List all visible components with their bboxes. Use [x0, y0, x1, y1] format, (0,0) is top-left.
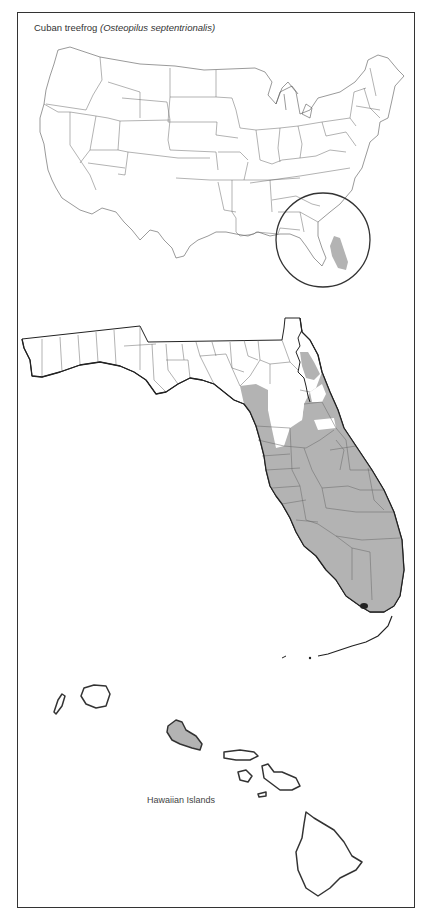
hawaii-big-island — [296, 812, 362, 896]
maui-island — [262, 764, 300, 790]
kahoolawe-island — [258, 792, 266, 797]
hawaii-map — [54, 685, 362, 896]
florida-map — [22, 318, 404, 659]
us-map — [40, 47, 404, 266]
molokai-island — [224, 750, 258, 760]
lanai-island — [238, 770, 252, 782]
hawaii-label: Hawaiian Islands — [147, 795, 215, 805]
range-map — [0, 0, 428, 922]
florida-present-peninsula — [240, 372, 404, 612]
kauai-island — [81, 685, 110, 708]
oahu-island — [167, 720, 202, 750]
florida-overview-range — [330, 236, 348, 270]
niihau-island — [54, 694, 65, 714]
